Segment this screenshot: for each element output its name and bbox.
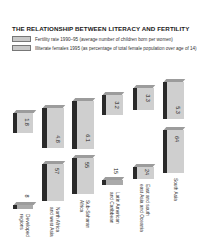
- fertility-value: 1.8: [24, 118, 30, 126]
- region-label-line: East and south: [144, 184, 150, 232]
- fertility-bar-latin-america: 3.2: [102, 95, 123, 115]
- region-label-line: and west Asia: [49, 207, 55, 237]
- illiteracy-bar-south-asia: 64: [163, 130, 184, 173]
- illiteracy-value: 15: [113, 168, 119, 174]
- illiteracy-bar-developed: 8: [13, 205, 35, 209]
- fertility-value: 5.3: [175, 106, 181, 114]
- region-label-developed: Developed regions: [19, 214, 30, 237]
- illiteracy-value: 64: [174, 136, 180, 142]
- region-label-latin-america: Latin American and Caribbean: [109, 192, 120, 224]
- illiteracy-bar-east-asia: 24: [133, 167, 154, 179]
- fertility-value: 3.2: [114, 101, 120, 109]
- fertility-value: 4.8: [55, 135, 61, 143]
- legend-item-illiteracy: Illiterate females 1995 (as percentage o…: [12, 45, 197, 51]
- region-label-line: east Asia and Oceania: [139, 184, 145, 232]
- fertility-bar-north-africa: 4.8: [42, 108, 64, 148]
- illiteracy-value: 24: [144, 169, 150, 175]
- region-label-line: Latin American: [114, 192, 120, 224]
- region-label-sub-saharan: Sub-Saharan Africa: [79, 200, 90, 228]
- region-label-north-africa: North Africa and west Asia: [49, 207, 60, 237]
- illiteracy-bar-sub-saharan: 55: [72, 158, 94, 194]
- fertility-bar-east-asia: 3.3: [133, 88, 154, 110]
- region-label-line: North Africa: [54, 207, 60, 237]
- illiteracy-bar-north-africa: 57: [42, 164, 64, 201]
- fertility-bar-sub-saharan: 6.1: [72, 101, 94, 149]
- legend-label-fertility: Fertility rate 1990–95 (average number o…: [35, 37, 173, 42]
- region-label-line: and Caribbean: [109, 192, 115, 224]
- fertility-value: 3.3: [145, 94, 151, 102]
- fertility-value: 6.1: [85, 134, 91, 142]
- legend-label-illiteracy: Illiterate females 1995 (as percentage o…: [35, 46, 197, 51]
- region-label-east-asia: East and south east Asia and Oceania: [139, 184, 150, 232]
- fertility-bar-developed: 1.8: [13, 113, 35, 133]
- illiteracy-value: 57: [54, 168, 60, 174]
- region-label-line: Sub-Saharan: [84, 200, 90, 228]
- region-label-line: South Asia: [172, 178, 178, 201]
- legend-swatch-illiteracy: [12, 45, 31, 51]
- region-label-south-asia: South Asia: [172, 178, 178, 201]
- legend-swatch-fertility: [12, 36, 31, 42]
- region-label-line: Developed: [24, 214, 30, 237]
- illiteracy-value: 55: [84, 162, 90, 168]
- chart-title: The relationship between literacy and fe…: [12, 25, 189, 32]
- legend-item-fertility: Fertility rate 1990–95 (average number o…: [12, 36, 173, 42]
- fertility-bar-south-asia: 5.3: [163, 82, 184, 119]
- illiteracy-value: 8: [24, 194, 30, 197]
- illiteracy-bar-latin-america: 15: [102, 180, 123, 185]
